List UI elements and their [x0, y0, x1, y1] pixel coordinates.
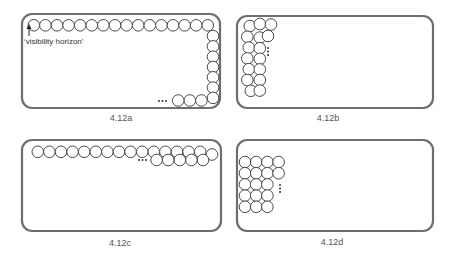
panel-a-label: 4.12a [110, 113, 133, 123]
circle [86, 20, 98, 32]
circle [262, 201, 274, 213]
circle [174, 154, 186, 166]
panel-b-circles [242, 18, 277, 96]
circle [63, 20, 75, 32]
circle [250, 190, 262, 202]
circle [136, 146, 148, 158]
circle [109, 20, 121, 32]
panel-d-label: 4.12d [321, 237, 344, 247]
circle [179, 20, 191, 32]
circle [262, 30, 274, 42]
circle [32, 146, 44, 158]
circle [250, 167, 262, 179]
circle [196, 95, 208, 107]
circle [254, 85, 266, 97]
circle [242, 74, 254, 86]
circle [254, 18, 266, 30]
circle [162, 154, 174, 166]
panel-c-label: 4.12c [109, 238, 131, 248]
circle [40, 20, 52, 32]
circle [262, 190, 274, 202]
circle [242, 53, 254, 65]
circle [67, 146, 79, 158]
circle [172, 95, 184, 107]
circle [28, 20, 40, 32]
circle [239, 190, 251, 202]
circle [239, 179, 251, 191]
circle [254, 64, 266, 76]
circle [90, 146, 102, 158]
circle [102, 146, 114, 158]
circle [125, 146, 137, 158]
panel-c-circles [32, 146, 218, 166]
circle [250, 156, 262, 168]
circle [113, 146, 125, 158]
circle [250, 179, 262, 191]
circle [239, 167, 251, 179]
circle [132, 20, 144, 32]
circle [262, 156, 274, 168]
circle [239, 201, 251, 213]
circle [202, 20, 214, 32]
circle [55, 146, 67, 158]
panel-a-circles [28, 20, 219, 107]
ellipsis-vertical-icon [279, 184, 281, 193]
ellipsis-icon [158, 100, 167, 102]
circle [44, 146, 56, 158]
circle [186, 154, 198, 166]
circle [254, 74, 266, 86]
circle [156, 20, 168, 32]
circle [243, 63, 255, 75]
circle [254, 42, 266, 54]
circle [207, 92, 219, 104]
panel-b-frame [237, 16, 433, 108]
circle [98, 20, 110, 32]
circle [74, 20, 86, 32]
circle [254, 53, 266, 65]
visibility-horizon-annotation: ‘visibility horizon’ [24, 37, 84, 46]
circle [273, 167, 285, 179]
circle [242, 31, 254, 43]
circle [151, 154, 163, 166]
circle [239, 156, 251, 168]
circle [250, 201, 262, 213]
circle [184, 95, 196, 107]
ellipsis-icon [138, 159, 147, 161]
circle [265, 19, 277, 31]
circle [273, 156, 285, 168]
circle [121, 20, 133, 32]
circle [51, 20, 63, 32]
circle [262, 179, 274, 191]
circle [78, 146, 90, 158]
circle [243, 42, 255, 54]
circle [144, 20, 156, 32]
circle [262, 167, 274, 179]
circle [190, 20, 202, 32]
panel-b-label: 4.12b [317, 113, 340, 123]
circle [197, 154, 209, 166]
panel-d-circles [239, 156, 284, 212]
ellipsis-vertical-icon [267, 47, 269, 56]
circle [167, 20, 179, 32]
